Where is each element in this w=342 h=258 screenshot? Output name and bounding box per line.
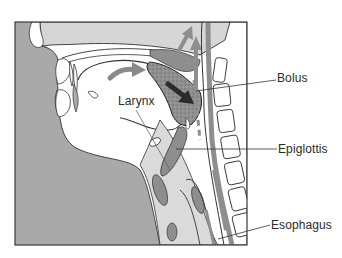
label-bolus: Bolus [277,71,308,85]
swallowing-diagram: Bolus Larynx Epiglottis Esophagus [0,0,342,258]
anatomy-drawing [15,22,253,245]
label-larynx: Larynx [118,94,155,108]
label-esophagus: Esophagus [271,218,332,232]
label-epiglottis: Epiglottis [278,142,328,156]
